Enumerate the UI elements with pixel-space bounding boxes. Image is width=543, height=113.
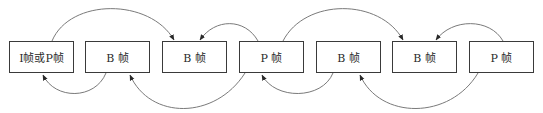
arrow-f7-to-f5 bbox=[360, 73, 478, 109]
arrow-f1-to-f3 bbox=[52, 9, 174, 41]
frame-label: P 帧 bbox=[491, 49, 513, 65]
arrow-f7-to-f6 bbox=[436, 24, 503, 41]
frame-box-i-or-p: I帧或P帧 bbox=[9, 41, 74, 73]
frame-box-b: B 帧 bbox=[316, 41, 381, 73]
frame-label: B 帧 bbox=[106, 49, 129, 65]
frame-box-p: P 帧 bbox=[239, 41, 304, 73]
frame-box-b: B 帧 bbox=[162, 41, 227, 73]
frame-label: B 帧 bbox=[183, 49, 206, 65]
arrow-f4-to-f2 bbox=[130, 73, 245, 109]
frame-label: I帧或P帧 bbox=[19, 49, 64, 65]
frame-box-b: B 帧 bbox=[85, 41, 150, 73]
frame-label: P 帧 bbox=[261, 49, 283, 65]
frame-box-b: B 帧 bbox=[392, 41, 457, 73]
arrow-f5-to-f4 bbox=[262, 73, 333, 94]
arrow-f4-to-f6 bbox=[283, 9, 403, 41]
frame-reference-diagram: I帧或P帧 B 帧 B 帧 P 帧 B 帧 B 帧 P 帧 bbox=[0, 0, 543, 113]
frame-box-p: P 帧 bbox=[469, 41, 534, 73]
arrow-f2-to-f1 bbox=[43, 73, 106, 94]
frame-label: B 帧 bbox=[337, 49, 360, 65]
frame-label: B 帧 bbox=[413, 49, 436, 65]
arrow-f4-to-f3 bbox=[200, 24, 258, 41]
